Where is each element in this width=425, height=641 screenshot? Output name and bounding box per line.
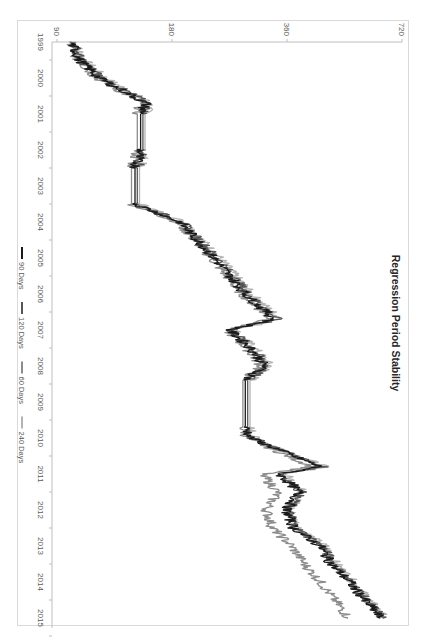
line-chart: 1999200020012002200320042005200620072008…	[0, 0, 425, 641]
x-tick-label: 2000	[36, 69, 45, 87]
x-tick-label: 2011	[36, 465, 45, 483]
x-tick-label: 2006	[36, 285, 45, 303]
x-tick-label: 2001	[36, 105, 45, 123]
y-tick-label: 180	[167, 23, 176, 37]
x-tick-label: 2013	[36, 537, 45, 555]
x-tick-label: 2003	[36, 177, 45, 195]
x-tick-label: 2015	[36, 609, 45, 627]
x-tick-label: 2005	[36, 249, 45, 267]
plot-area	[67, 42, 386, 618]
x-tick-label: 2014	[36, 573, 45, 591]
x-tick-label: 2008	[36, 357, 45, 375]
legend-item: 120 Days	[17, 302, 26, 349]
legend-item: 60 Days	[17, 362, 26, 405]
y-tick-label: 720	[397, 23, 406, 37]
y-tick-label: 90	[52, 27, 61, 36]
series-line-90-days	[69, 42, 384, 618]
x-tick-label: 2007	[36, 321, 45, 339]
legend-label: 240 Days	[17, 432, 26, 464]
x-tick-label: 2004	[36, 213, 45, 231]
x-tick-label: 1999	[36, 33, 45, 51]
legend-label: 90 Days	[17, 262, 26, 290]
legend-item: 90 Days	[17, 247, 26, 290]
axes: 1999200020012002200320042005200620072008…	[36, 23, 406, 636]
x-tick-label: 2002	[36, 141, 45, 159]
y-tick-label: 360	[282, 23, 291, 37]
legend-label: 60 Days	[17, 377, 26, 405]
legend-item: 240 Days	[17, 417, 26, 464]
legend-label: 120 Days	[17, 317, 26, 349]
legend: 90 Days120 Days60 Days240 Days	[17, 247, 26, 464]
x-tick-label: 2009	[36, 393, 45, 411]
x-tick-label: 2012	[36, 501, 45, 519]
x-tick-label: 2010	[36, 429, 45, 447]
series-line-60-days	[67, 42, 350, 618]
chart-title: Regression Period Stability	[390, 255, 402, 392]
